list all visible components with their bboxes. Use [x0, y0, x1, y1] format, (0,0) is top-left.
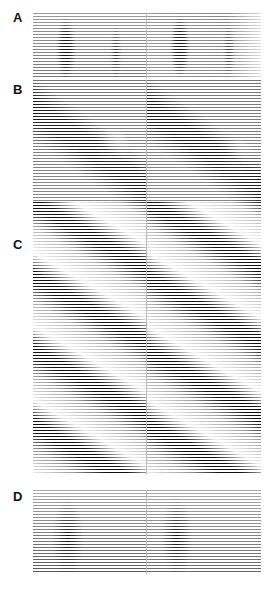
raster-d-left	[33, 490, 146, 574]
raster-b-left	[33, 80, 146, 202]
raster-a-right	[147, 13, 261, 79]
raster-c-right	[147, 202, 261, 474]
panel-label-c: C	[13, 237, 22, 252]
raster-b-right	[147, 80, 261, 202]
raster-panel-c	[33, 202, 261, 474]
panel-label-b: B	[13, 82, 22, 97]
raster-a-left	[33, 13, 146, 79]
raster-c-left	[33, 202, 146, 474]
raster-d-right	[147, 490, 261, 574]
panel-label-d: D	[13, 489, 22, 504]
panel-label-a: A	[13, 10, 22, 25]
raster-panel-d	[33, 490, 261, 574]
raster-panel-b	[33, 80, 261, 202]
raster-panel-a	[33, 13, 261, 79]
